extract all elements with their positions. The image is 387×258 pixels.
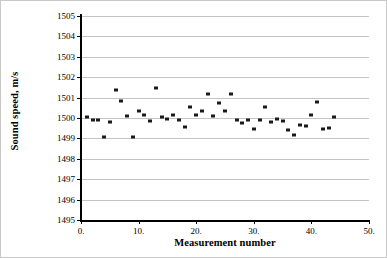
x-tick-label: 20. — [191, 226, 202, 236]
data-point — [327, 127, 331, 130]
data-point — [85, 115, 89, 118]
y-axis-title: Sound speed, m/s — [7, 1, 23, 221]
gridline-y — [81, 118, 369, 119]
data-point — [165, 118, 169, 121]
data-point — [188, 105, 192, 108]
data-point — [304, 125, 308, 128]
y-tick-label: 1498 — [57, 158, 75, 159]
data-point — [206, 92, 210, 95]
x-axis-line — [80, 220, 370, 222]
data-point — [102, 136, 106, 139]
y-tick-label: 1504 — [57, 36, 75, 37]
data-point — [263, 105, 267, 108]
gridline-y — [81, 36, 369, 37]
gridline-y — [81, 16, 369, 17]
data-point — [148, 120, 152, 123]
plot-area: 1495149614971498149915001501150215031504… — [81, 16, 369, 220]
data-point — [171, 113, 175, 116]
data-point — [211, 114, 215, 117]
gridline-y — [81, 159, 369, 160]
y-tick-label: 1503 — [57, 56, 75, 57]
data-point — [160, 115, 164, 118]
data-point — [269, 121, 273, 124]
y-tick-label: 1501 — [57, 97, 75, 98]
y-tick-label: 1499 — [57, 138, 75, 139]
data-point — [217, 101, 221, 104]
data-point — [246, 119, 250, 122]
data-point — [183, 126, 187, 129]
data-point — [258, 119, 262, 122]
gridline-y — [81, 57, 369, 58]
gridline-y — [81, 98, 369, 99]
y-tick-label: 1500 — [57, 118, 75, 119]
data-point — [119, 99, 123, 102]
scatter-chart-figure: Sound speed, m/s 14951496149714981499150… — [0, 0, 387, 258]
x-tick-label: 40. — [306, 226, 317, 236]
data-point — [229, 92, 233, 95]
data-point — [194, 113, 198, 116]
gridline-y — [81, 138, 369, 139]
data-point — [298, 124, 302, 127]
y-tick-label: 1496 — [57, 199, 75, 200]
data-point — [131, 136, 135, 139]
x-tick-label: 0. — [78, 226, 85, 236]
data-point — [321, 128, 325, 131]
y-tick-label: 1502 — [57, 77, 75, 78]
data-point — [252, 128, 256, 131]
gridline-y — [81, 77, 369, 78]
data-point — [286, 129, 290, 132]
data-point — [96, 119, 100, 122]
data-point — [309, 113, 313, 116]
data-point — [137, 109, 141, 112]
gridline-y — [81, 200, 369, 201]
data-point — [154, 87, 158, 90]
y-tick-label: 1497 — [57, 179, 75, 180]
data-point — [108, 121, 112, 124]
x-tick-label: 30. — [248, 226, 259, 236]
data-point — [332, 115, 336, 118]
data-point — [275, 118, 279, 121]
y-axis-line — [80, 14, 82, 222]
data-point — [292, 134, 296, 137]
y-tick-label: 1495 — [57, 220, 75, 221]
gridline-y — [81, 179, 369, 180]
data-point — [200, 109, 204, 112]
data-point — [177, 119, 181, 122]
data-point — [223, 109, 227, 112]
y-tick-label: 1505 — [57, 16, 75, 17]
data-point — [315, 100, 319, 103]
x-tick-label: 10. — [133, 226, 144, 236]
data-point — [91, 119, 95, 122]
data-point — [281, 120, 285, 123]
data-point — [125, 114, 129, 117]
data-point — [235, 119, 239, 122]
data-point — [142, 113, 146, 116]
data-point — [114, 89, 118, 92]
x-axis-title: Measurement number — [81, 237, 369, 248]
data-point — [240, 122, 244, 125]
x-tick-label: 50. — [363, 226, 374, 236]
